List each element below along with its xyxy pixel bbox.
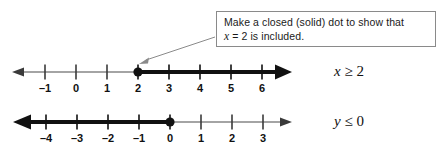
inequality-label-2: y ≤ 0	[334, 113, 364, 130]
closed-dot-endpoint	[133, 67, 142, 76]
closed-dot-endpoint	[165, 117, 174, 126]
inequality-relation: ≤ 0	[341, 113, 364, 129]
callout-line-1: Make a closed (solid) dot to show that	[224, 15, 430, 29]
number-line-2	[13, 115, 292, 130]
callout-text: Make a closed (solid) dot to show that x…	[224, 15, 430, 43]
axis-2-left-arrow-thick	[13, 115, 31, 130]
axis-1-left-arrow-thin	[12, 68, 24, 77]
number-line-1	[12, 65, 292, 80]
inequality-variable: x	[334, 63, 341, 79]
tick-label: –4	[33, 132, 59, 144]
callout-leader-line	[146, 37, 215, 60]
inequality-label-1: x ≥ 2	[334, 63, 364, 80]
tick-label: 1	[94, 82, 120, 94]
tick-label: 0	[157, 132, 183, 144]
axis-1-right-arrow-thick	[275, 65, 292, 80]
tick-label: 2	[219, 132, 245, 144]
tick-label: 5	[218, 82, 244, 94]
tick-label: –2	[95, 132, 121, 144]
figure-canvas: Make a closed (solid) dot to show that x…	[0, 0, 440, 157]
tick-label: –1	[32, 82, 58, 94]
tick-label: 6	[249, 82, 275, 94]
tick-label: 3	[250, 132, 276, 144]
callout-line-2-rest: = 2 is included.	[229, 30, 304, 42]
callout-leader-arrowhead	[139, 58, 149, 65]
tick-label: 1	[188, 132, 214, 144]
axis-2-right-arrow-thin	[280, 118, 292, 127]
tick-label: 2	[125, 82, 151, 94]
tick-label: 0	[63, 82, 89, 94]
callout-line-2: x = 2 is included.	[224, 29, 430, 43]
tick-label: 3	[156, 82, 182, 94]
inequality-relation: ≥ 2	[341, 63, 364, 79]
tick-label: –1	[126, 132, 152, 144]
tick-label: –3	[64, 132, 90, 144]
inequality-variable: y	[334, 113, 341, 129]
tick-label: 4	[187, 82, 213, 94]
